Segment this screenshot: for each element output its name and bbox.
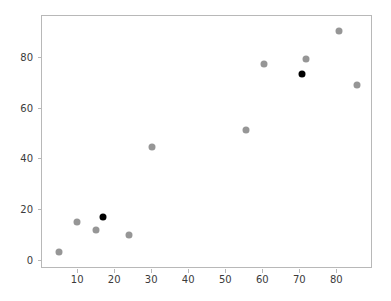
data-point-normal xyxy=(92,226,99,233)
x-tick-mark xyxy=(188,269,189,273)
data-point-normal xyxy=(74,218,81,225)
x-tick-label: 60 xyxy=(256,274,269,285)
data-point-highlight xyxy=(100,214,107,221)
x-tick-label: 70 xyxy=(293,274,306,285)
data-point-normal xyxy=(336,28,343,35)
x-tick-label: 80 xyxy=(330,274,343,285)
data-point-normal xyxy=(126,231,133,238)
y-tick-label: 80 xyxy=(20,51,33,62)
x-tick-mark xyxy=(262,269,263,273)
data-point-normal xyxy=(302,56,309,63)
y-tick-label: 40 xyxy=(20,153,33,164)
data-point-normal xyxy=(261,61,268,68)
data-point-highlight xyxy=(298,70,305,77)
y-tick-label: 0 xyxy=(27,255,33,266)
x-tick-label: 30 xyxy=(145,274,158,285)
x-tick-mark xyxy=(299,269,300,273)
y-tick-mark xyxy=(38,158,42,159)
x-tick-label: 40 xyxy=(182,274,195,285)
y-tick-mark xyxy=(38,57,42,58)
x-tick-mark xyxy=(225,269,226,273)
y-tick-label: 60 xyxy=(20,102,33,113)
data-point-normal xyxy=(353,82,360,89)
y-tick-mark xyxy=(38,209,42,210)
y-tick-label: 20 xyxy=(20,204,33,215)
data-point-normal xyxy=(242,127,249,134)
data-point-normal xyxy=(55,249,62,256)
x-tick-label: 50 xyxy=(219,274,232,285)
scatter-plot-figure: 1020304050607080 020406080 xyxy=(0,0,391,301)
y-tick-mark xyxy=(38,108,42,109)
x-tick-mark xyxy=(114,269,115,273)
data-point-normal xyxy=(148,143,155,150)
x-tick-label: 10 xyxy=(71,274,84,285)
x-tick-mark xyxy=(336,269,337,273)
x-tick-mark xyxy=(77,269,78,273)
plot-area: 1020304050607080 020406080 xyxy=(41,15,372,268)
x-tick-mark xyxy=(151,269,152,273)
y-tick-mark xyxy=(38,260,42,261)
x-tick-label: 20 xyxy=(108,274,121,285)
